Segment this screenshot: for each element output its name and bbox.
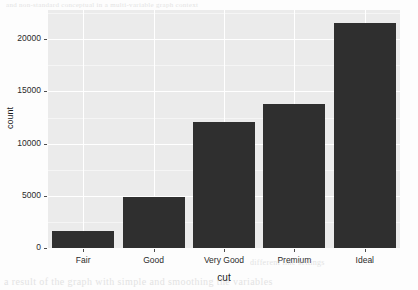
y-tick-label: 20000 [0, 33, 41, 43]
y-tick-label: 10000 [0, 138, 41, 148]
y-tick-label: 5000 [0, 190, 41, 200]
y-tick-mark [44, 91, 47, 92]
x-tick-label: Very Good [204, 255, 244, 265]
y-tick-mark [44, 196, 47, 197]
bar-good [123, 197, 185, 248]
x-tick-mark [365, 249, 366, 252]
chart-figure: and non-standard conceptual in a multi-v… [0, 0, 418, 290]
x-tick-label: Ideal [356, 255, 374, 265]
x-tick-label: Fair [76, 255, 91, 265]
y-tick-mark [44, 144, 47, 145]
x-tick-label: Premium [277, 255, 311, 265]
y-tick-mark [44, 248, 47, 249]
y-tick-label: 0 [0, 242, 41, 252]
y-axis-title: count [5, 92, 15, 144]
scan-artifact-top-text: and non-standard conceptual in a multi-v… [6, 1, 198, 9]
gridline-x-major [83, 10, 84, 248]
x-axis-title: cut [48, 272, 400, 283]
x-tick-mark [224, 249, 225, 252]
bar-premium [263, 104, 325, 248]
plot-panel [48, 10, 400, 248]
y-tick-mark [44, 39, 47, 40]
y-tick-label: 15000 [0, 85, 41, 95]
x-tick-label: Good [143, 255, 164, 265]
x-tick-mark [83, 249, 84, 252]
bar-ideal [334, 23, 396, 248]
x-tick-mark [294, 249, 295, 252]
bar-fair [52, 231, 114, 248]
x-tick-mark [154, 249, 155, 252]
bar-very-good [193, 122, 255, 248]
